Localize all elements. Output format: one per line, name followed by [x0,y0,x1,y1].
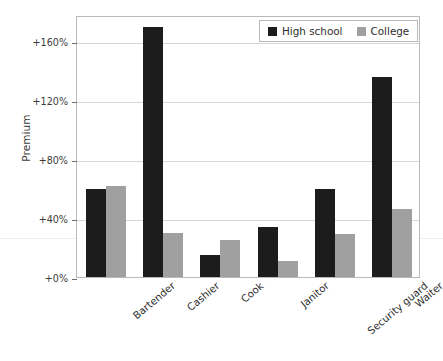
plot-area [76,16,420,278]
bar-cashier-high-school [143,27,163,277]
y-axis-tick-labels: +0%+40%+80%+120%+160% [0,16,68,278]
x-axis-label-bartender: Bartender [131,280,177,321]
bar-cook-high-school [200,255,220,277]
legend-swatch-college [357,27,366,36]
bar-cook-college [220,240,240,277]
y-axis-tick [72,43,77,44]
gridline [77,220,419,221]
x-axis-label-janitor: Janitor [298,280,330,310]
y-axis-tick [72,102,77,103]
y-axis-tick-label: +120% [33,96,68,107]
gridline [77,102,419,103]
chart-legend: High school College [259,20,418,42]
gridline [77,161,419,162]
x-axis-label-cook: Cook [239,280,266,305]
legend-entry-college: College [357,25,410,37]
x-axis-label-cashier: Cashier [185,280,222,313]
bar-janitor-college [278,261,298,277]
y-axis-tick-label: +80% [39,155,68,166]
bar-chart: Premium +0%+40%+80%+120%+160% BartenderC… [0,0,443,361]
y-axis-tick-label: +0% [45,273,68,284]
bar-janitor-high-school [258,227,278,277]
legend-label-college: College [371,25,410,37]
y-axis-tick-label: +160% [33,37,68,48]
bar-waiter-high-school [372,77,392,277]
bar-cashier-college [163,233,183,277]
y-axis-tick [72,161,77,162]
y-axis-tick [72,220,77,221]
y-axis-tick-label: +40% [39,214,68,225]
bar-bartender-high-school [86,189,106,277]
x-axis-category-labels: BartenderCashierCookJanitorSecurity guar… [76,280,420,360]
legend-entry-high-school: High school [268,25,343,37]
bar-waiter-college [392,209,412,277]
bar-bartender-college [106,186,126,277]
gridline [77,43,419,44]
bar-security-guard-high-school [315,189,335,277]
bar-security-guard-college [335,234,355,277]
legend-label-high-school: High school [282,25,343,37]
legend-swatch-high-school [268,27,277,36]
